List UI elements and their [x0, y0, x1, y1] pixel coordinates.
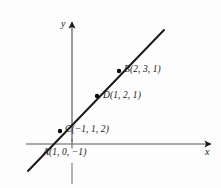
coordinate-plane-figure: B(2, 3, 1) D(1, 2, 1) C(−1, 1, 2) A(1, 0…: [0, 0, 221, 188]
point-dot-D: [95, 94, 99, 98]
point-dot-C: [58, 129, 62, 133]
point-label-D: D(1, 2, 1): [103, 90, 141, 100]
point-label-B: B(2, 3, 1): [124, 64, 161, 74]
point-dot-B: [117, 69, 121, 73]
point-label-A: A(1, 0, −1): [43, 147, 86, 157]
point-label-C: C(−1, 1, 2): [65, 124, 109, 134]
x-axis-label: x: [205, 146, 209, 157]
y-axis-label: y: [61, 18, 65, 29]
